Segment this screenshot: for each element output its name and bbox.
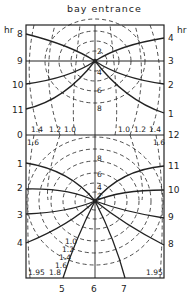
left-hour: 10 <box>12 80 23 90</box>
range-label: 1.8 <box>49 269 61 277</box>
range-label: 6 <box>97 87 102 95</box>
range-label: 2 <box>97 193 102 201</box>
left-hour: 1 <box>17 159 23 169</box>
left-hour: 0 <box>17 130 23 140</box>
bottom-hour: 6 <box>91 284 97 294</box>
right-hour: 3 <box>168 56 174 66</box>
left-hour: 3 <box>17 210 23 220</box>
range-label: 6 <box>97 171 102 179</box>
right-hour: 10 <box>168 185 179 195</box>
range-label: 4 <box>97 69 102 77</box>
range-label: 1.0 <box>64 126 76 134</box>
range-label: 2 <box>97 48 102 56</box>
range-label: 1.6 <box>27 139 39 147</box>
left-unit: hr <box>4 25 13 35</box>
diagram-title: bay entrance <box>67 4 142 14</box>
range-label: 8 <box>97 155 102 163</box>
left-hour: 9 <box>17 56 23 66</box>
cotidal-diagram <box>0 0 193 304</box>
right-hour: 4 <box>168 33 174 43</box>
bottom-hour: 5 <box>59 284 65 294</box>
range-label: 1.4 <box>149 126 161 134</box>
right-hour: 2 <box>168 80 174 90</box>
bottom-hour: 7 <box>121 284 127 294</box>
right-hour: 9 <box>168 212 174 222</box>
left-hour: 4 <box>17 238 23 248</box>
range-label: 1.2 <box>134 126 146 134</box>
right-hour: 8 <box>168 239 174 249</box>
range-label: 4 <box>97 184 102 192</box>
range-label: 1.0 <box>118 126 130 134</box>
right-hour: 11 <box>168 161 179 171</box>
range-label: 1.95 <box>146 269 163 277</box>
right-hour: 12 <box>168 130 179 140</box>
range-label: 1.2 <box>49 126 61 134</box>
left-hour: 8 <box>17 29 23 39</box>
range-label: 1.4 <box>31 126 43 134</box>
left-hour: 11 <box>12 105 23 115</box>
left-hour: 2 <box>17 183 23 193</box>
range-label: 1.6 <box>153 139 165 147</box>
range-label: 1.95 <box>28 269 45 277</box>
range-label: 8 <box>97 105 102 113</box>
right-hour: 1 <box>168 109 174 119</box>
right-unit: hr <box>177 25 186 35</box>
